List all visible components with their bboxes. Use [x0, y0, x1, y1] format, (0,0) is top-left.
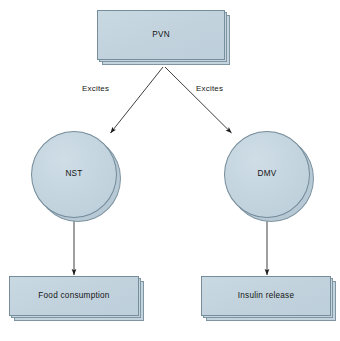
node-dmv[interactable]: DMV — [224, 131, 310, 218]
node-insulin-release[interactable]: Insulin release — [201, 276, 331, 316]
node-dmv-face — [224, 131, 310, 218]
node-pvn-face — [97, 10, 225, 60]
edge-pvn-to-dmv — [165, 67, 232, 133]
node-pvn[interactable]: PVN — [97, 10, 225, 60]
node-food-consumption-face — [9, 276, 139, 316]
edge-label-pvn-dmv: Excites — [196, 85, 223, 93]
node-food-consumption[interactable]: Food consumption — [9, 276, 139, 316]
node-insulin-release-face — [201, 276, 331, 316]
node-nst[interactable]: NST — [31, 131, 117, 218]
edge-pvn-to-nst — [111, 67, 164, 133]
edge-label-pvn-nst: Excites — [82, 85, 109, 93]
node-nst-face — [31, 131, 117, 218]
diagram-canvas: PVN Excites Excites NST DMV Food consump… — [0, 0, 340, 341]
